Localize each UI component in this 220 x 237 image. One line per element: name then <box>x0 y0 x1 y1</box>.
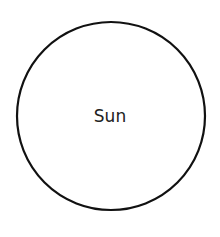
diagram-canvas: Sun <box>0 0 220 237</box>
sun-node: Sun <box>17 22 205 210</box>
sun-label: Sun <box>94 106 126 126</box>
